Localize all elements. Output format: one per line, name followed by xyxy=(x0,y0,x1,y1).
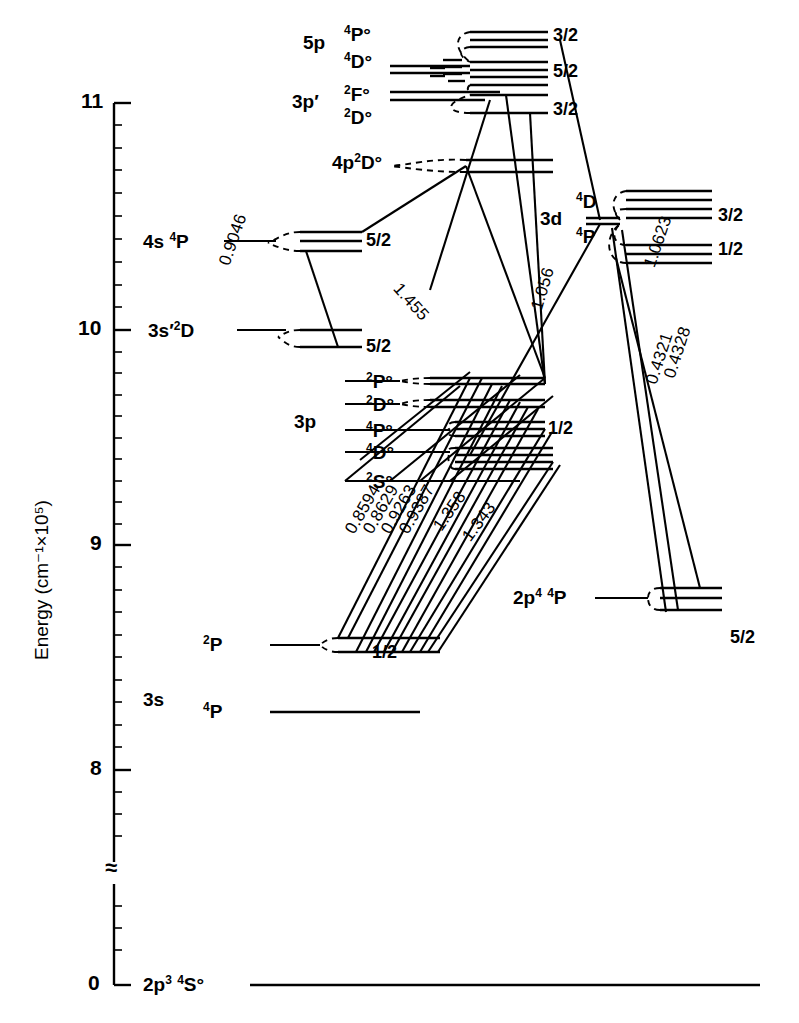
term-label-3p-2Po: 2P° xyxy=(366,371,393,391)
term-label-3pprime-2Fo: 2F° xyxy=(344,84,370,104)
axis-tick-label-10: 10 xyxy=(78,317,101,338)
term-label-5p-4Po: 4P° xyxy=(344,24,371,44)
term-label-3p-4Do: 4D° xyxy=(366,442,394,462)
transition-3d-to-3p xyxy=(470,224,600,455)
term-label-3s-4P: 4P xyxy=(203,701,222,721)
j-label-3sp2D: 5/2 xyxy=(366,337,391,355)
term-label-3pprime: 3p′ xyxy=(292,92,319,111)
energy-level-diagram: 11 10 9 8 0 ≈ Energy (cm⁻¹×10⁵) 5p 4P° 4… xyxy=(0,0,799,1023)
transition-0.9046 xyxy=(306,251,338,347)
term-label-5p-4Do: 4D° xyxy=(344,51,372,71)
j-label-2p44P: 5/2 xyxy=(730,628,755,646)
axis-tick-label-11: 11 xyxy=(81,90,103,111)
term-label-5p: 5p xyxy=(303,33,325,52)
fan-connectors xyxy=(268,32,660,652)
term-label-3d: 3d xyxy=(540,209,562,228)
term-label-3d-4P: 4P xyxy=(576,226,595,246)
j-label-3p4Po: 1/2 xyxy=(548,419,573,437)
term-label-3p-2Do: 2D° xyxy=(366,394,394,414)
transition-1.455b xyxy=(466,166,545,378)
axis-tick-label-8: 8 xyxy=(90,757,102,778)
term-label-4p-2Do: 4p2D° xyxy=(332,152,382,172)
transition-1.343 xyxy=(428,462,553,652)
j-label-3d4P: 1/2 xyxy=(718,240,743,258)
j-label-3pp2Do: 3/2 xyxy=(553,100,578,118)
j-label-4s4P: 5/2 xyxy=(366,231,391,249)
term-label-4s-4P: 4s 4P xyxy=(143,231,189,251)
term-label-3s: 3s xyxy=(143,690,164,709)
axis-tick-label-9: 9 xyxy=(90,532,102,553)
y-axis-title: Energy (cm⁻¹×10⁵) xyxy=(32,500,51,660)
term-label-3pprime-2Do: 2D° xyxy=(344,107,372,127)
term-label-3sprime-2D: 3s′2D xyxy=(148,320,194,340)
fine-structure-stubs xyxy=(430,60,465,81)
term-label-3p: 3p xyxy=(294,412,316,431)
j-label-3s2P: 1/2 xyxy=(372,643,397,661)
j-label-5p4Do: 5/2 xyxy=(553,62,578,80)
term-label-ground-2p3-4So: 2p3 4S° xyxy=(143,974,204,994)
axis-tick-label-0: 0 xyxy=(88,972,100,993)
axis-group xyxy=(114,103,131,985)
term-label-2p4-4P: 2p4 4P xyxy=(513,587,567,607)
axis-break-symbol: ≈ xyxy=(105,857,117,879)
j-label-3d4D: 3/2 xyxy=(718,206,743,224)
transition-1.056 xyxy=(506,95,545,384)
transition-0.4328 xyxy=(622,230,678,610)
transition-3pp-down xyxy=(430,100,490,290)
term-label-3d-4D: 4D xyxy=(576,191,596,211)
j-label-5p4Po: 3/2 xyxy=(553,26,578,44)
term-label-3p-4Po: 4P° xyxy=(366,420,393,440)
transition-1.0623 xyxy=(616,258,700,588)
term-label-3s-2P: 2P xyxy=(203,634,222,654)
